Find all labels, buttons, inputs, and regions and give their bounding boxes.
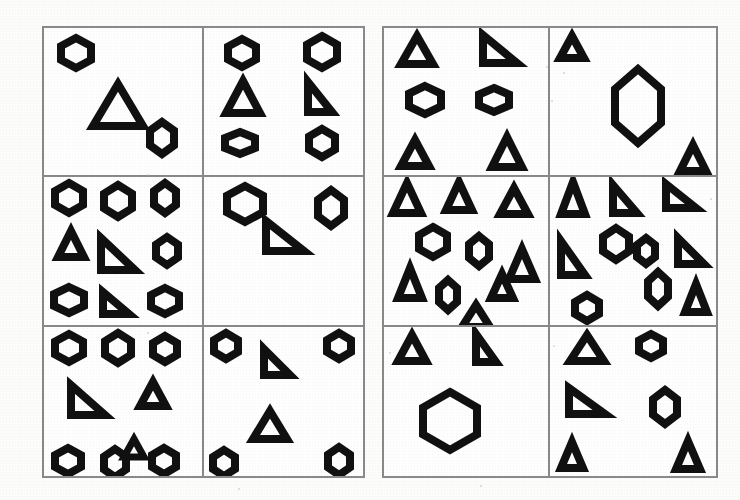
right-cell-row3-col2 <box>550 327 716 476</box>
triangle-shape <box>130 372 176 416</box>
left-cell-row3-col1 <box>44 327 204 476</box>
left-panel <box>42 26 365 478</box>
right-cell-row3-col1 <box>384 327 550 476</box>
left-cell-row1-col1 <box>44 28 204 177</box>
scan-speck <box>480 485 482 487</box>
triangle-shape <box>675 274 716 322</box>
hexagon-shape <box>204 327 248 369</box>
hexagon-shape <box>141 278 189 324</box>
hexagon-shape <box>142 438 186 476</box>
triangle-shape <box>551 231 595 285</box>
hexagon-shape <box>45 177 93 223</box>
left-cell-row2-col2 <box>204 177 364 326</box>
triangle-shape <box>61 375 115 425</box>
triangle-shape <box>256 211 314 261</box>
triangle-shape <box>93 282 139 324</box>
triangle-shape <box>216 71 270 123</box>
triangle-shape <box>391 130 439 176</box>
triangle-shape <box>550 28 594 68</box>
hexagon-shape <box>318 437 360 476</box>
triangle-shape <box>560 327 614 371</box>
hexagon-shape <box>638 262 678 316</box>
hexagon-shape <box>204 440 246 476</box>
triangle-shape <box>452 295 500 327</box>
triangle-shape <box>490 178 538 224</box>
hexagon-shape <box>140 112 184 164</box>
hexagon-shape <box>215 122 265 164</box>
hexagon-shape <box>51 28 101 78</box>
hexagon-shape <box>45 438 91 476</box>
triangle-shape <box>473 28 527 73</box>
triangle-shape <box>603 177 647 223</box>
hexagon-shape <box>45 327 93 372</box>
triangle-shape <box>91 228 145 280</box>
triangle-shape <box>466 327 506 372</box>
right-panel <box>382 26 718 478</box>
scan-speck <box>551 100 553 102</box>
scan-speck <box>546 66 548 68</box>
hexagon-shape <box>308 180 354 236</box>
hexagon-shape <box>317 327 361 369</box>
triangle-shape <box>298 72 342 122</box>
hexagon-shape <box>143 327 187 372</box>
scan-speck <box>389 352 391 354</box>
hexagon-shape <box>297 28 347 78</box>
hexagon-shape <box>94 177 142 227</box>
hexagon-shape <box>299 119 345 167</box>
hexagon-shape <box>218 29 266 77</box>
hexagon-shape <box>413 382 487 460</box>
triangle-shape <box>254 339 300 385</box>
left-cell-row2-col1 <box>44 177 204 326</box>
scan-speck <box>147 332 149 334</box>
right-cell-row1-col2 <box>550 28 716 177</box>
figure-root <box>0 0 740 500</box>
hexagon-shape <box>469 78 519 122</box>
triangle-shape <box>243 401 297 449</box>
scan-speck <box>553 345 555 347</box>
hexagon-shape <box>399 76 451 124</box>
triangle-shape <box>551 432 593 476</box>
triangle-shape <box>670 135 716 178</box>
triangle-shape <box>666 431 710 476</box>
hexagon-shape <box>144 177 186 223</box>
triangle-shape <box>384 177 431 223</box>
triangle-shape <box>551 177 595 224</box>
triangle-shape <box>388 327 436 371</box>
hexagon-shape <box>629 327 673 368</box>
left-cell-row1-col2 <box>204 28 364 177</box>
triangle-shape <box>391 28 443 74</box>
hexagon-shape <box>643 380 687 434</box>
hexagon-shape <box>95 327 141 373</box>
scan-speck <box>563 72 565 74</box>
triangle-shape <box>656 177 706 218</box>
hexagon-shape <box>44 277 94 323</box>
hexagon-shape <box>605 59 671 153</box>
hexagon-shape <box>565 285 609 326</box>
scan-speck <box>147 174 149 176</box>
right-cell-row2-col1 <box>384 177 550 326</box>
triangle-shape <box>436 177 482 220</box>
triangle-shape <box>388 258 432 308</box>
left-cell-row3-col2 <box>204 327 364 476</box>
triangle-shape <box>559 378 615 424</box>
scan-speck <box>710 198 712 200</box>
scan-speck <box>238 488 240 490</box>
hexagon-shape <box>94 439 136 476</box>
hexagon-shape <box>146 227 188 275</box>
triangle-shape <box>482 127 532 177</box>
triangle-shape <box>48 221 94 267</box>
right-cell-row2-col2 <box>550 177 716 326</box>
right-cell-row1-col1 <box>384 28 550 177</box>
